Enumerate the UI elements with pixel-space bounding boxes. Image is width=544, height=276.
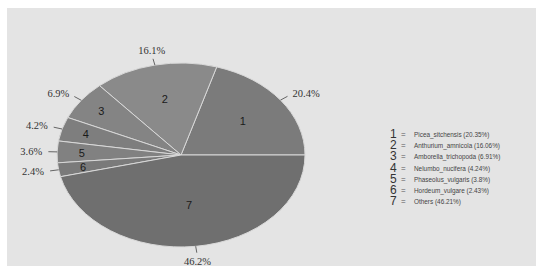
legend-equals: = xyxy=(401,130,414,139)
legend-item: 5 = Phaseolus_vulgaris (3.8%) xyxy=(390,174,540,185)
legend-index: 7 xyxy=(390,196,399,207)
legend-label: Anthurium_amnicola (16.06%) xyxy=(414,142,500,149)
legend: 1 = Picea_sitchensis (20.35%) 2 = Anthur… xyxy=(390,129,540,207)
legend-item: 2 = Anthurium_amnicola (16.06%) xyxy=(390,140,540,151)
slice-index-label: 2 xyxy=(162,93,168,105)
legend-label: Nelumbo_nucifera (4.24%) xyxy=(414,165,490,172)
legend-item: 1 = Picea_sitchensis (20.35%) xyxy=(390,129,540,140)
slice-index-label: 4 xyxy=(83,128,89,140)
leader-line xyxy=(196,246,197,252)
slice-index-label: 3 xyxy=(98,105,104,117)
slice-percent-label: 6.9% xyxy=(47,88,69,99)
slice-index-label: 5 xyxy=(79,147,85,159)
legend-item: 3 = Amborella_trichopoda (6.91%) xyxy=(390,151,540,162)
legend-item: 7 = Others (46.21%) xyxy=(390,196,540,207)
legend-equals: = xyxy=(401,164,414,173)
leader-line xyxy=(74,97,81,101)
slice-percent-label: 3.6% xyxy=(20,146,42,157)
legend-equals: = xyxy=(401,197,414,206)
slice-index-label: 1 xyxy=(240,115,246,127)
slice-percent-label: 46.2% xyxy=(184,256,211,267)
legend-label: Others (46.21%) xyxy=(414,198,461,205)
slice-index-label: 7 xyxy=(186,199,192,211)
legend-label: Picea_sitchensis (20.35%) xyxy=(414,131,489,138)
leader-line xyxy=(281,96,288,100)
leader-line xyxy=(50,170,59,171)
slice-percent-label: 2.4% xyxy=(22,166,44,177)
leader-line xyxy=(153,59,155,65)
slice-percent-label: 16.1% xyxy=(138,45,165,56)
leader-line xyxy=(54,127,62,129)
legend-equals: = xyxy=(401,186,414,195)
pie-slices xyxy=(57,63,305,247)
slice-index-label: 6 xyxy=(80,161,86,173)
legend-item: 6 = Hordeum_vulgare (2.43%) xyxy=(390,185,540,196)
slice-percent-label: 4.2% xyxy=(26,120,48,131)
legend-label: Amborella_trichopoda (6.91%) xyxy=(414,153,500,160)
legend-label: Hordeum_vulgare (2.43%) xyxy=(414,187,489,194)
legend-equals: = xyxy=(401,152,414,161)
legend-item: 4 = Nelumbo_nucifera (4.24%) xyxy=(390,163,540,174)
legend-label: Phaseolus_vulgaris (3.8%) xyxy=(414,176,490,183)
legend-equals: = xyxy=(401,141,414,150)
slice-percent-label: 20.4% xyxy=(293,88,320,99)
legend-equals: = xyxy=(401,175,414,184)
